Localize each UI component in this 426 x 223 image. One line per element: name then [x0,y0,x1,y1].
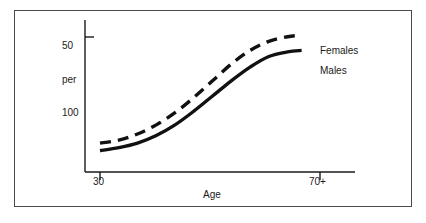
chart-figure: 50 per 100 30 70+ Age Females Males [0,0,426,223]
y-axis-label-line-2: per [62,74,79,86]
series-label-females: Females [320,45,358,56]
x-axis-title: Age [203,189,221,200]
y-axis-label: 50 per 100 [62,18,79,141]
series-line-males [100,50,302,150]
series-line-females [100,35,302,143]
x-axis-tick-label-70-plus: 70+ [309,176,326,187]
series-label-males: Males [320,65,347,76]
y-axis-label-line-3: 100 [62,107,79,119]
x-axis-tick-label-30: 30 [93,176,104,187]
y-axis-label-line-1: 50 [62,40,79,52]
